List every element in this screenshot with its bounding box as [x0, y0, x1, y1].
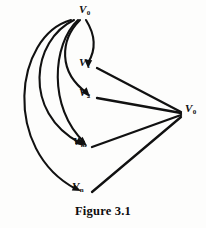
node-base-v0-top: V — [79, 3, 86, 15]
node-subscript-v1: 1 — [87, 62, 91, 70]
node-subscript-v0-right: 0 — [193, 108, 197, 116]
node-label-vn: Vn — [72, 181, 84, 194]
figure-container: V0 V1 V2 Vm Vn V0 Figure 3.1 — [0, 0, 206, 228]
node-label-v0-top: V0 — [79, 4, 90, 17]
node-base-v2: V — [79, 86, 86, 98]
node-base-v1: V — [79, 56, 86, 68]
node-label-v2: V2 — [79, 87, 90, 100]
node-base-vm: V — [73, 135, 80, 147]
edge-vm-to-v0right — [92, 115, 181, 147]
edge-v0-to-vm-inner — [58, 20, 84, 142]
node-base-vn: V — [72, 180, 79, 192]
node-label-vm: Vm — [73, 136, 87, 149]
node-subscript-vn: n — [80, 186, 84, 194]
graph-canvas — [0, 0, 206, 228]
node-subscript-v2: 2 — [87, 92, 91, 100]
figure-caption: Figure 3.1 — [0, 204, 206, 219]
node-label-v1: V1 — [79, 57, 90, 70]
edge-v0-to-vn — [24, 20, 76, 189]
edge-vn-to-v0right — [92, 117, 181, 192]
node-label-v0-right: V0 — [185, 103, 196, 116]
node-subscript-v0-top: 0 — [87, 9, 91, 17]
node-base-v0-right: V — [185, 102, 192, 114]
node-subscript-vm: m — [81, 141, 87, 149]
